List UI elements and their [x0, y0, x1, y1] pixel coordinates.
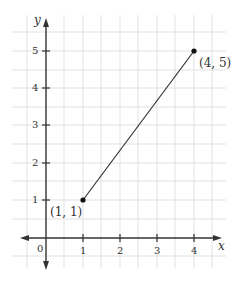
point-a-marker: [80, 197, 85, 202]
y-axis-label: y: [34, 14, 41, 26]
y-tick-label-5: 5: [32, 46, 38, 56]
x-tick-label-3: 3: [154, 246, 160, 256]
x-axis-label: x: [218, 240, 225, 252]
coordinate-plane: [0, 0, 238, 281]
point-b-label: (4, 5): [199, 57, 231, 69]
y-axis-arrow-up: [43, 18, 49, 27]
y-tick-label-4: 4: [32, 83, 38, 93]
x-axis-arrow-left: [20, 235, 29, 241]
origin-label: 0: [37, 244, 43, 254]
point-a-label: (1, 1): [50, 206, 82, 218]
x-tick-label-2: 2: [117, 246, 123, 256]
point-b-marker: [191, 48, 196, 53]
x-tick-label-1: 1: [80, 246, 86, 256]
y-tick-label-2: 2: [32, 158, 38, 168]
line-segment: [83, 51, 194, 200]
x-tick-label-4: 4: [191, 246, 197, 256]
y-axis-arrow-down: [43, 261, 49, 270]
y-tick-label-1: 1: [32, 195, 38, 205]
y-tick-label-3: 3: [32, 120, 38, 130]
